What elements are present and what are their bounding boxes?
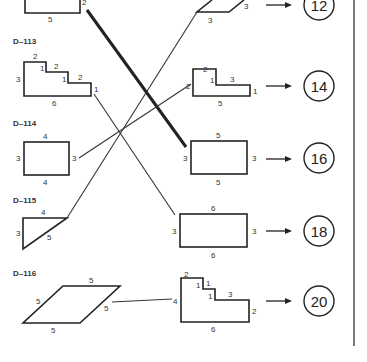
answer-row-14: 14	[266, 71, 334, 101]
arrow-head-icon	[285, 228, 292, 234]
side-label: 1	[196, 281, 201, 290]
side-label: 3	[16, 229, 21, 238]
answer-row-12: 12	[266, 0, 334, 20]
side-label: 4	[43, 178, 48, 187]
side-label: 2	[203, 65, 208, 74]
answer-row-20: 20	[266, 286, 334, 316]
left-shape-staircase: 2 1 2 1 2 1 3 6	[16, 52, 99, 108]
connector-line	[94, 94, 175, 215]
left-shape-rectangle-partial: 2 5	[25, 0, 87, 24]
left-shape-rectangle: 4 3 3 4	[16, 132, 77, 187]
side-label: 3	[16, 75, 21, 84]
side-label: 3	[252, 154, 257, 163]
side-label: 5	[216, 131, 221, 140]
item-code: D–113	[13, 37, 37, 46]
answer-value: 20	[311, 293, 328, 310]
side-label: 5	[104, 304, 109, 313]
side-label: 1	[208, 292, 213, 301]
item-code: D–114	[13, 119, 37, 128]
answer-value: 16	[311, 150, 328, 167]
side-label: 2	[184, 270, 189, 279]
side-label: 3	[172, 227, 177, 236]
side-label: 4	[41, 208, 46, 217]
arrow-head-icon	[285, 83, 292, 89]
connector-line	[79, 84, 191, 158]
arrow-head-icon	[285, 298, 292, 304]
answer-row-18: 18	[266, 216, 334, 246]
item-code: D–115	[13, 196, 37, 205]
answer-value: 12	[311, 0, 328, 14]
side-label: 1	[62, 75, 67, 84]
side-label: 4	[43, 132, 48, 141]
side-label: 1	[210, 76, 215, 85]
connector-line	[112, 299, 172, 302]
side-label: 5	[216, 178, 221, 187]
side-label: 5	[48, 15, 53, 24]
side-label: 1	[206, 279, 211, 288]
side-label: 2	[82, 0, 87, 7]
side-label: 4	[173, 297, 178, 306]
side-label: 1	[94, 85, 99, 94]
side-label: 6	[52, 99, 57, 108]
side-label: 1	[40, 64, 45, 73]
connector-line-thick	[87, 10, 186, 147]
right-shape-rectangle-6x3: 6 3 3 6	[172, 204, 257, 260]
side-label: 5	[51, 326, 56, 335]
side-label: 5	[89, 276, 94, 285]
side-label: 5	[36, 297, 41, 306]
answer-value: 18	[311, 223, 328, 240]
side-label: 2	[186, 82, 191, 91]
side-label: 3	[228, 290, 233, 299]
answer-value: 14	[311, 78, 328, 95]
item-code: D–116	[13, 269, 37, 278]
side-label: 6	[211, 325, 216, 334]
answer-row-16: 16	[266, 143, 334, 173]
left-shape-rhombus: 5 5 5 5	[23, 276, 120, 335]
matching-diagram: 2 5 D–113 2 1 2 1 2 1 3 6 D–114 4 3 3 4 …	[0, 0, 367, 362]
side-label: 3	[72, 154, 77, 163]
side-label: 3	[16, 154, 21, 163]
connector-line	[67, 12, 197, 218]
right-shape-rectangle-5x3: 5 3 3 5	[183, 131, 257, 187]
left-shape-triangle: 4 3 5	[16, 208, 67, 249]
side-label: 2	[252, 307, 257, 316]
side-label: 2	[33, 52, 38, 61]
side-label: 2	[78, 73, 83, 82]
arrow-head-icon	[285, 2, 292, 8]
side-label: 3	[183, 154, 188, 163]
side-label: 5	[47, 233, 52, 242]
side-label: 1	[253, 87, 258, 96]
right-shape-staircase: 2 1 1 1 3 4 2 6	[173, 270, 257, 334]
side-label: 3	[244, 2, 249, 11]
right-shape-l-shape: 2 1 3 2 1 5	[186, 65, 258, 108]
side-label: 3	[252, 227, 257, 236]
side-label: 6	[211, 251, 216, 260]
side-label: 3	[230, 75, 235, 84]
side-label: 6	[211, 204, 216, 213]
side-label: 3	[208, 16, 213, 25]
arrow-head-icon	[285, 156, 292, 162]
right-shape-parallelogram-partial: 3 3	[197, 0, 249, 25]
side-label: 5	[218, 99, 223, 108]
side-label: 2	[54, 62, 59, 71]
